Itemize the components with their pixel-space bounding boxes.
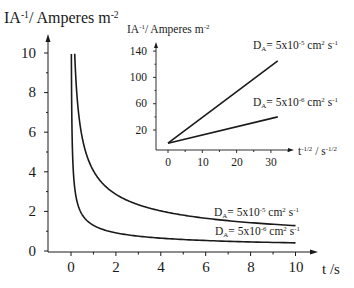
inset-y-tick-label: 20: [117, 125, 147, 137]
main-x-axis-label: t /s: [322, 262, 340, 277]
main-y-tick-label: 10: [6, 46, 36, 61]
main-legend-high-d: DA= 5x10-5 cm2 s-1: [214, 207, 299, 219]
main-x-tick-label: 0: [56, 260, 86, 275]
inset-y-tick-label: 60: [117, 98, 147, 110]
main-x-tick-label: 4: [146, 260, 176, 275]
main-y-tick-label: 8: [6, 85, 36, 100]
main-x-tick-label: 8: [236, 260, 266, 275]
inset-legend-low-d: DA= 5x10-6 cm2 s-1: [253, 97, 338, 109]
inset-legend-high-d: D_A = 5x10^-5 cm^2 s^-1DA= 5x10-5 cm2 s-…: [253, 40, 338, 52]
main-y-axis-label: IA-1/ Amperes m-2: [4, 10, 119, 26]
inset-y-axis-arrow-icon: [154, 42, 158, 48]
main-y-tick-label: 0: [6, 244, 36, 259]
inset-y-tick-label: 100: [117, 72, 147, 84]
inset-x-axis-arrow-icon: [288, 148, 294, 152]
main-y-axis-arrow-icon: [46, 34, 51, 42]
inset-x-tick-label: 0: [153, 157, 183, 169]
main-x-tick-label: 2: [101, 260, 131, 275]
inset-x-tick-label: 30: [256, 157, 286, 169]
main-x-tick-label: 6: [191, 260, 221, 275]
main-x-tick-label: 10: [281, 260, 311, 275]
inset-x-axis-label: t-1/2 / s-1/2: [298, 146, 337, 158]
main-y-tick-label: 6: [6, 125, 36, 140]
inset-y-axis-label: IA-1/ Amperes m-2: [127, 24, 209, 36]
inset-y-tick-label: 140: [117, 46, 147, 58]
main-y-tick-label: 2: [6, 204, 36, 219]
main-y-tick-label: 4: [6, 165, 36, 180]
inset-x-tick-label: 20: [222, 157, 252, 169]
main-x-axis-arrow-icon: [310, 250, 318, 255]
inset-x-tick-label: 10: [188, 157, 218, 169]
main-legend-low-d: DA= 5x10-6 cm2 s-1: [215, 226, 300, 238]
